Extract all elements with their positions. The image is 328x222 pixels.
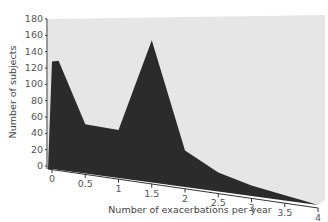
x-tick-label: 4 — [315, 212, 321, 222]
y-tick-label: 120 — [25, 62, 43, 73]
x-tick-label: 0.5 — [78, 178, 93, 189]
y-tick-label: 60 — [31, 111, 43, 122]
y-tick-label: 100 — [25, 78, 43, 89]
y-tick-label: 40 — [31, 127, 43, 138]
y-tick-label: 140 — [25, 46, 43, 57]
x-tick-label: 1 — [115, 183, 121, 194]
y-axis-ticks: 020406080100120140160180 — [25, 13, 47, 171]
y-tick-label: 180 — [25, 13, 43, 24]
y-tick-label: 80 — [31, 95, 43, 106]
y-axis-title: Number of subjects — [7, 46, 18, 139]
x-tick-label: 1.5 — [144, 188, 159, 199]
x-tick-label: 2 — [182, 193, 188, 204]
area-chart: 020406080100120140160180 00.511.522.533.… — [0, 0, 328, 222]
x-tick-label: 0 — [49, 173, 55, 184]
x-axis-title: Number of exacerbations per year — [108, 204, 272, 215]
x-tick-label: 3.5 — [277, 207, 292, 218]
y-tick-label: 0 — [37, 160, 43, 171]
y-tick-label: 20 — [31, 144, 43, 155]
y-tick-label: 160 — [25, 29, 43, 40]
